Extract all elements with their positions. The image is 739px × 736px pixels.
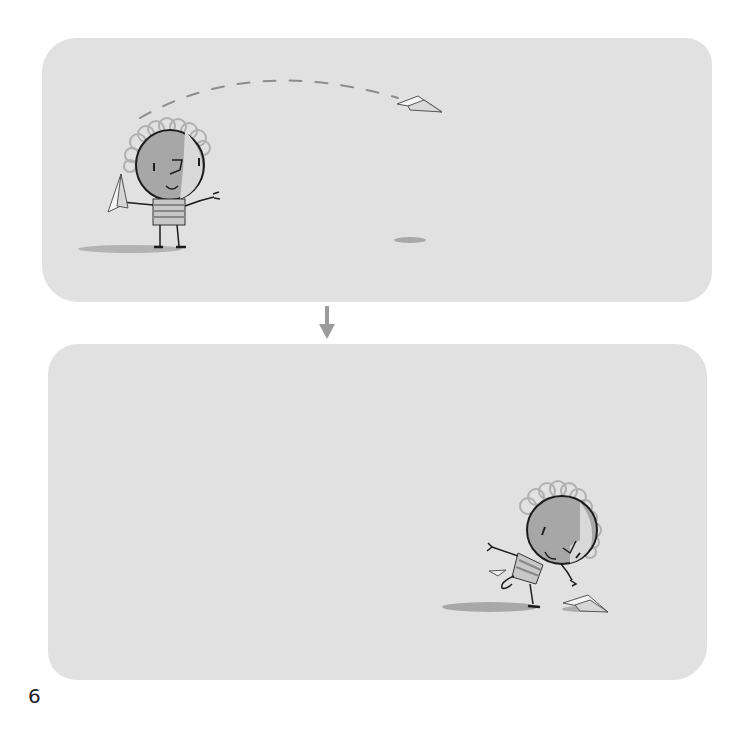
page-number: 6: [28, 684, 41, 708]
child-shadow-bottom: [442, 602, 538, 612]
top-scene-illustration: [0, 0, 739, 736]
flight-path: [140, 81, 398, 118]
airplane-shadow: [394, 237, 426, 243]
paper-airplane-flying: [397, 96, 442, 112]
arrow-down-icon: [316, 306, 338, 340]
child-standing: [108, 118, 220, 247]
child-running: [487, 481, 601, 607]
child-shadow-top: [78, 245, 182, 253]
